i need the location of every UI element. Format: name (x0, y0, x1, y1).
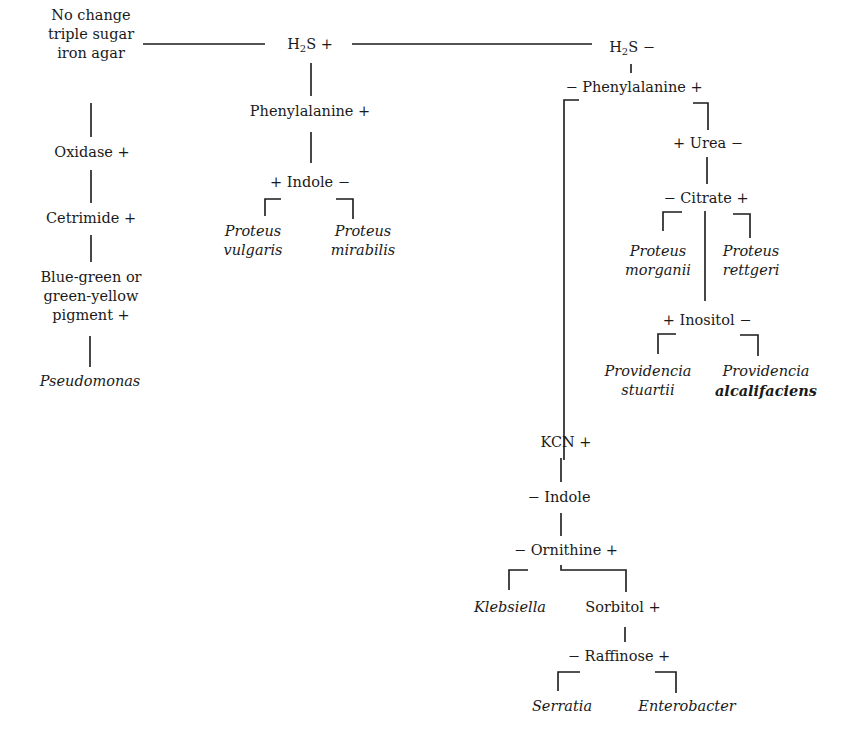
result-providencia-stuartii: Providencia stuartii (605, 362, 692, 400)
result-proteus-vulgaris: Proteus vulgaris (223, 222, 282, 260)
result-pseudomonas: Pseudomonas (40, 372, 141, 391)
result-proteus-morganii: Proteus morganii (625, 242, 691, 280)
h2s-neg-suffix: S − (628, 39, 655, 55)
proteus-rettgeri-genus: Proteus (723, 242, 780, 261)
result-serratia: Serratia (532, 697, 592, 716)
node-indole-negative: − Indole (527, 488, 590, 507)
node-h2s-positive: H2S + (287, 35, 333, 54)
pigment-line-1: Blue-green or (40, 268, 141, 287)
result-proteus-rettgeri: Proteus rettgeri (723, 242, 780, 280)
node-raffinose: − Raffinose + (568, 647, 670, 666)
result-klebsiella: Klebsiella (474, 598, 546, 617)
proteus-rettgeri-species: rettgeri (723, 261, 780, 280)
node-oxidase: Oxidase + (54, 143, 129, 162)
node-phenylalanine-split: − Phenylalanine + (565, 78, 702, 97)
node-sorbitol: Sorbitol + (585, 598, 660, 617)
node-pigment: Blue-green or green-yellow pigment + (40, 268, 141, 325)
node-h2s-negative: H2S − (609, 38, 655, 57)
result-providencia-alcalifaciens: Providencia alcalifaciens (715, 362, 817, 400)
node-cetrimide: Cetrimide + (46, 209, 136, 228)
proteus-vulgaris-genus: Proteus (223, 222, 282, 241)
pigment-line-3: pigment + (40, 306, 141, 325)
node-urea: + Urea − (673, 134, 743, 153)
node-citrate: − Citrate + (663, 189, 748, 208)
proteus-morganii-genus: Proteus (625, 242, 691, 261)
providencia-stuartii-genus: Providencia (605, 362, 692, 381)
providencia-alcalifaciens-species: alcalifaciens (715, 381, 817, 400)
h2s-neg-h: H (609, 39, 622, 55)
root-line-3: iron agar (48, 44, 134, 63)
node-inositol: + Inositol − (663, 311, 752, 330)
h2s-pos-suffix: S + (306, 36, 333, 52)
root-line-1: No change (48, 6, 134, 25)
proteus-vulgaris-species: vulgaris (223, 241, 282, 260)
node-ornithine: − Ornithine + (514, 541, 618, 560)
proteus-mirabilis-genus: Proteus (331, 222, 396, 241)
node-phenylalanine-positive: Phenylalanine + (250, 102, 370, 121)
root-node-no-change-tsi: No change triple sugar iron agar (48, 6, 134, 63)
result-enterobacter: Enterobacter (638, 697, 735, 716)
proteus-morganii-species: morganii (625, 261, 691, 280)
proteus-mirabilis-species: mirabilis (331, 241, 396, 260)
node-kcn: KCN + (541, 433, 592, 452)
identification-key-diagram: No change triple sugar iron agar H2S + H… (0, 0, 850, 743)
result-proteus-mirabilis: Proteus mirabilis (331, 222, 396, 260)
pigment-line-2: green-yellow (40, 287, 141, 306)
root-line-2: triple sugar (48, 25, 134, 44)
providencia-stuartii-species: stuartii (605, 381, 692, 400)
h2s-pos-h: H (287, 36, 300, 52)
providencia-alcalifaciens-genus: Providencia (715, 362, 817, 381)
node-indole: + Indole − (270, 173, 350, 192)
